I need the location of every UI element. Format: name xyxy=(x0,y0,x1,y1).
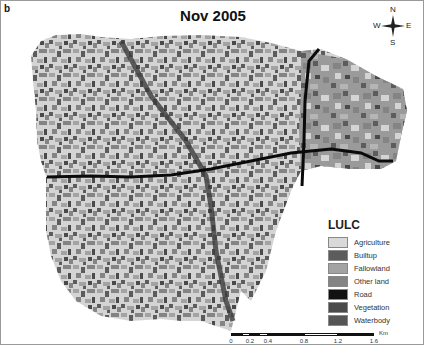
legend-label: Other land xyxy=(354,277,389,286)
compass-west-label: W xyxy=(373,21,381,30)
scale-segment xyxy=(259,333,268,336)
scale-tick: 0 xyxy=(229,338,232,344)
scale-tick: 0.2 xyxy=(246,338,254,344)
north-arrow: N S E W xyxy=(373,5,413,47)
scale-segment xyxy=(242,333,250,336)
scale-segment xyxy=(304,333,338,336)
legend-label: Vegetation xyxy=(354,303,389,312)
legend-swatch xyxy=(328,302,348,313)
legend-item-builtup: Builtup xyxy=(328,249,418,262)
legend-label: Agriculture xyxy=(354,238,390,247)
scale-bar: Km 0 0.2 0.4 0.8 1.2 1.6 xyxy=(227,333,417,346)
scale-segment xyxy=(250,333,259,336)
map-frame: b Nov 2005 xyxy=(0,0,424,345)
scale-tick: 0.8 xyxy=(300,338,308,344)
legend-label: Road xyxy=(354,290,372,299)
legend-item-agriculture: Agriculture xyxy=(328,236,418,249)
legend-label: Waterbody xyxy=(354,316,390,325)
compass-south-label: S xyxy=(390,38,395,47)
legend-item-vegetation: Vegetation xyxy=(328,301,418,314)
legend: LULC Agriculture Builtup Fallowland Othe… xyxy=(328,218,418,327)
legend-swatch xyxy=(328,237,348,248)
scale-segment xyxy=(268,333,304,336)
scale-tick: 0.4 xyxy=(264,338,272,344)
legend-swatch xyxy=(328,276,348,287)
legend-title: LULC xyxy=(328,218,418,232)
scale-segment xyxy=(231,333,242,336)
legend-item-road: Road xyxy=(328,288,418,301)
legend-swatch xyxy=(328,289,348,300)
legend-item-other-land: Other land xyxy=(328,275,418,288)
compass-east-label: E xyxy=(406,21,411,30)
legend-swatch xyxy=(328,315,348,326)
legend-item-fallowland: Fallowland xyxy=(328,262,418,275)
legend-swatch xyxy=(328,263,348,274)
legend-label: Builtup xyxy=(354,251,377,260)
scale-segment xyxy=(338,333,374,336)
scale-tick: 1.6 xyxy=(370,338,378,344)
scale-unit: Km xyxy=(379,330,388,336)
legend-label: Fallowland xyxy=(354,264,390,273)
legend-item-waterbody: Waterbody xyxy=(328,314,418,327)
compass-north-label: N xyxy=(390,5,396,14)
legend-swatch xyxy=(328,250,348,261)
scale-tick: 1.2 xyxy=(334,338,342,344)
